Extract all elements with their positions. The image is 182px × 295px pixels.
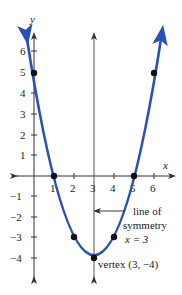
parabola-graph: 1 2 3 4 5 6 6 5 4 3 2 1 −1 −2 −3 −4 y x … [0, 0, 182, 295]
point-1-0 [51, 173, 57, 179]
y-tick-label: 3 [20, 108, 26, 120]
point-5-0 [131, 173, 137, 179]
x-tick-label: 3 [90, 182, 96, 194]
x-tick-label: 4 [110, 182, 116, 194]
y-tick-label: −4 [10, 252, 22, 264]
point-6-5 [151, 70, 157, 76]
y-tick-label: 5 [20, 66, 26, 78]
y-tick-label: 1 [20, 149, 26, 161]
y-tick-label: −3 [10, 231, 22, 243]
symmetry-label-line1: line of [133, 205, 162, 217]
point-2-neg3 [71, 234, 77, 240]
y-tick-label: 4 [20, 87, 26, 99]
x-axis-label: x [162, 159, 168, 171]
y-tick-label: −2 [10, 211, 22, 223]
y-tick-label: −1 [10, 190, 22, 202]
symmetry-label-line2: symmetry [123, 219, 167, 231]
point-4-neg3 [111, 234, 117, 240]
y-tick-label: 6 [20, 45, 26, 57]
point-vertex [91, 255, 97, 261]
y-axis-label: y [29, 13, 35, 25]
y-tick-label: 2 [20, 129, 26, 141]
vertex-label: vertex (3, −4) [98, 258, 159, 271]
point-0-5 [31, 70, 37, 76]
x-tick-label: 6 [150, 182, 156, 194]
symmetry-equation: x = 3 [124, 233, 149, 245]
x-tick-label: 2 [70, 182, 76, 194]
